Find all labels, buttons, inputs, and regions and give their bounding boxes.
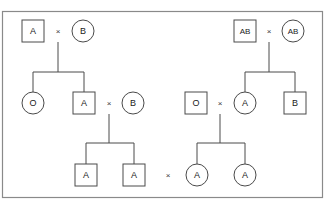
blood-type-label: A xyxy=(194,170,200,180)
pedigree-figure: ABOABAAABABOABAA ××××× xyxy=(0,0,326,208)
mating-cross-symbol: × xyxy=(218,99,223,108)
individual-male-a[interactable]: A xyxy=(73,92,95,114)
individual-female-o[interactable]: O xyxy=(22,92,44,114)
inter-group-mating-cross-symbol: × xyxy=(166,171,171,180)
individual-female-a[interactable]: A xyxy=(234,164,256,186)
figure-border xyxy=(3,12,323,198)
individual-female-a[interactable]: A xyxy=(186,164,208,186)
blood-type-label: A xyxy=(242,170,248,180)
blood-type-label: O xyxy=(192,98,199,108)
individual-male-b[interactable]: B xyxy=(284,92,306,114)
individual-female-ab[interactable]: AB xyxy=(282,20,304,42)
blood-type-label: B xyxy=(292,98,298,108)
individual-male-a[interactable]: A xyxy=(75,164,97,186)
individual-female-a[interactable]: A xyxy=(234,92,256,114)
blood-type-label: A xyxy=(83,170,89,180)
individual-female-b[interactable]: B xyxy=(122,92,144,114)
blood-type-label: O xyxy=(29,98,36,108)
blood-type-label: B xyxy=(80,26,86,36)
blood-type-label: B xyxy=(130,98,136,108)
blood-type-label: AB xyxy=(288,27,299,36)
individual-male-o[interactable]: O xyxy=(185,92,207,114)
blood-type-label: AB xyxy=(240,27,251,36)
individual-female-b[interactable]: B xyxy=(72,20,94,42)
blood-type-label: A xyxy=(81,98,87,108)
pedigree-diagram: ABOABAAABABOABAA ××××× xyxy=(0,0,326,208)
individual-male-ab[interactable]: AB xyxy=(234,20,256,42)
individual-male-a[interactable]: A xyxy=(123,164,145,186)
mating-cross-symbol: × xyxy=(107,99,112,108)
blood-type-label: A xyxy=(131,170,137,180)
blood-type-label: A xyxy=(242,98,248,108)
mating-cross-symbol: × xyxy=(56,27,61,36)
individual-symbols-layer: ABOABAAABABOABAA xyxy=(22,20,306,186)
blood-type-label: A xyxy=(30,26,36,36)
individual-male-a[interactable]: A xyxy=(22,20,44,42)
mating-cross-symbol: × xyxy=(267,27,272,36)
